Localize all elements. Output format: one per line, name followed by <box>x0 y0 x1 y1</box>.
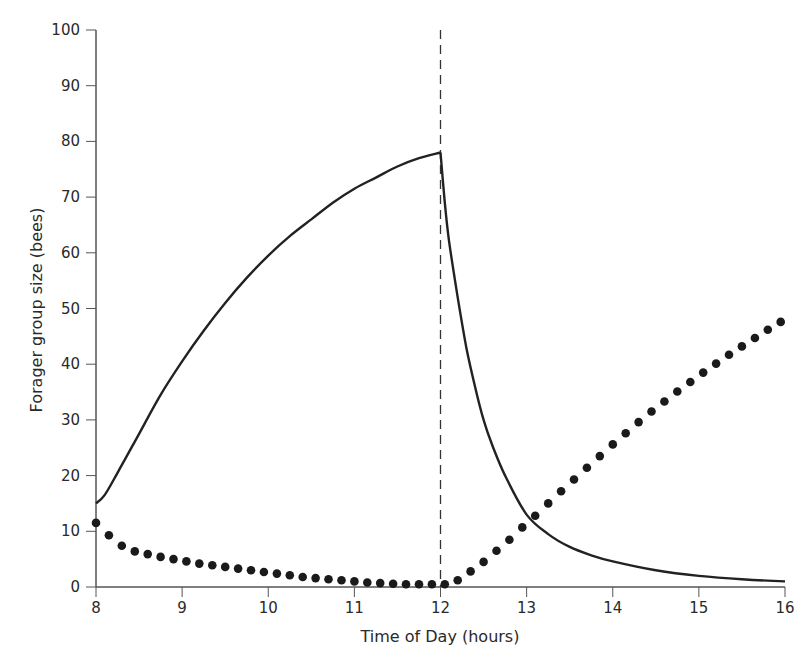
x-tick-label: 16 <box>775 599 794 617</box>
y-tick-label: 10 <box>61 522 80 540</box>
data-point-dot <box>131 547 140 556</box>
data-point-dot <box>195 559 204 568</box>
data-point-dot <box>596 452 605 461</box>
x-tick-label: 8 <box>91 599 101 617</box>
data-point-dot <box>621 429 630 438</box>
data-point-dot <box>156 553 165 562</box>
data-point-dot <box>492 547 501 556</box>
y-tick-label: 100 <box>51 21 80 39</box>
data-point-dot <box>751 334 760 343</box>
data-point-dot <box>686 378 695 387</box>
data-point-dot <box>208 561 217 570</box>
data-point-dot <box>105 531 114 540</box>
data-point-dot <box>118 542 127 551</box>
data-point-dot <box>570 475 579 484</box>
data-point-dot <box>221 563 230 572</box>
dotted-series-points <box>92 318 785 589</box>
data-point-dot <box>247 566 256 575</box>
y-tick-label: 50 <box>61 300 80 318</box>
data-point-dot <box>311 574 320 583</box>
data-point-dot <box>428 580 437 589</box>
data-point-dot <box>324 575 333 584</box>
data-point-dot <box>415 580 424 589</box>
data-point-dot <box>350 577 359 586</box>
data-point-dot <box>557 487 566 496</box>
data-point-dot <box>505 535 514 544</box>
data-point-dot <box>441 580 450 589</box>
x-tick-label: 10 <box>259 599 278 617</box>
x-tick-label: 9 <box>177 599 187 617</box>
data-point-dot <box>286 571 295 580</box>
data-point-dot <box>466 567 475 576</box>
y-tick-label: 70 <box>61 188 80 206</box>
data-point-dot <box>143 550 152 559</box>
data-point-dot <box>776 318 785 327</box>
data-point-dot <box>169 555 178 564</box>
x-axis-ticks: 8910111213141516 <box>91 587 794 617</box>
y-tick-label: 0 <box>70 578 80 596</box>
data-point-dot <box>518 523 527 532</box>
y-tick-label: 40 <box>61 355 80 373</box>
data-point-dot <box>647 407 656 416</box>
data-point-dot <box>92 519 101 528</box>
x-tick-label: 12 <box>431 599 450 617</box>
data-point-dot <box>673 387 682 396</box>
data-point-dot <box>725 350 734 359</box>
data-point-dot <box>453 576 462 585</box>
data-point-dot <box>531 511 540 520</box>
y-tick-label: 90 <box>61 77 80 95</box>
x-tick-label: 14 <box>603 599 622 617</box>
data-point-dot <box>234 564 243 573</box>
data-point-dot <box>544 499 553 508</box>
data-point-dot <box>402 580 411 589</box>
data-point-dot <box>764 325 773 334</box>
data-point-dot <box>609 440 618 449</box>
data-point-dot <box>273 569 282 578</box>
data-point-dot <box>712 359 721 368</box>
x-axis-title: Time of Day (hours) <box>360 627 520 646</box>
y-axis-ticks: 0102030405060708090100 <box>51 21 96 596</box>
data-point-dot <box>738 342 747 351</box>
data-point-dot <box>376 579 385 588</box>
y-tick-label: 20 <box>61 467 80 485</box>
data-point-dot <box>660 397 669 406</box>
data-point-dot <box>298 573 307 582</box>
data-point-dot <box>583 464 592 473</box>
data-point-dot <box>389 579 398 588</box>
x-tick-label: 11 <box>345 599 364 617</box>
y-axis-title: Forager group size (bees) <box>27 208 46 413</box>
data-point-dot <box>634 418 643 427</box>
y-tick-label: 60 <box>61 244 80 262</box>
data-point-dot <box>260 568 269 577</box>
x-tick-label: 15 <box>689 599 708 617</box>
data-point-dot <box>699 368 708 377</box>
y-tick-label: 30 <box>61 411 80 429</box>
data-point-dot <box>479 558 488 567</box>
forager-chart: 0102030405060708090100 8910111213141516 … <box>0 0 812 670</box>
data-point-dot <box>182 557 191 566</box>
x-tick-label: 13 <box>517 599 536 617</box>
y-tick-label: 80 <box>61 132 80 150</box>
data-point-dot <box>337 576 346 585</box>
data-point-dot <box>363 578 372 587</box>
